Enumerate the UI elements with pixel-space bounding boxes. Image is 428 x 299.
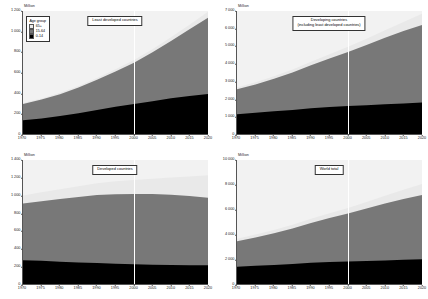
x-axis-tick-mark (115, 285, 116, 286)
x-axis-tick-label: 2005 (148, 287, 156, 291)
y-axis-tick-label: 7 000 (225, 9, 235, 13)
y-axis-tick-mark (21, 114, 22, 115)
chart-panel-developing: Million Developing countries (including … (214, 0, 428, 149)
y-axis-tick-label: 2 000 (225, 258, 235, 262)
x-axis-tick-label: 2000 (343, 287, 351, 291)
legend-label: 0-14 (36, 34, 43, 39)
x-axis-tick-mark (310, 285, 311, 286)
x-axis-tick-label: 2010 (381, 287, 389, 291)
y-axis-tick-mark (21, 249, 22, 250)
x-axis-tick-mark (133, 285, 134, 286)
x-axis-tick-mark (385, 135, 386, 136)
y-axis-tick-mark (235, 64, 236, 65)
y-axis-tick-mark (21, 160, 22, 161)
x-axis-tick-mark (96, 135, 97, 136)
x-axis-tick-label: 1970 (232, 287, 240, 291)
x-axis-tick-mark (171, 285, 172, 286)
x-axis-tick-mark (347, 285, 348, 286)
x-axis-tick-label: 1975 (36, 137, 44, 141)
plot-area (236, 160, 422, 285)
y-axis-tick-mark (21, 231, 22, 232)
x-axis-tick-mark (171, 135, 172, 136)
x-axis-tick-label: 1975 (250, 137, 258, 141)
stacked-area-svg (23, 160, 208, 284)
x-axis-tick-label: 2020 (204, 137, 212, 141)
y-axis-tick-label: 4 000 (225, 62, 235, 66)
legend: Age group 65+ 15-64 0-14 (26, 16, 50, 42)
x-axis-tick-mark (115, 135, 116, 136)
x-axis-tick-label: 1980 (269, 137, 277, 141)
x-axis-tick-mark (292, 285, 293, 286)
y-axis-tick-mark (21, 267, 22, 268)
x-axis-tick-label: 2010 (167, 137, 175, 141)
y-axis-tick-label: 800 (14, 50, 20, 54)
x-axis-tick-mark (189, 285, 190, 286)
y-axis-tick-mark (235, 260, 236, 261)
y-axis-tick-label: 400 (14, 92, 20, 96)
panel-title-line1: Least developed countries (92, 17, 137, 22)
x-axis-tick-mark (40, 285, 41, 286)
y-axis-tick-mark (235, 82, 236, 83)
x-axis-tick-mark (236, 285, 237, 286)
x-axis-tick-mark (273, 285, 274, 286)
x-axis-tick-mark (347, 135, 348, 136)
x-axis-tick-label: 1970 (18, 137, 26, 141)
y-axis-tick-mark (21, 11, 22, 12)
y-axis-tick-mark (235, 28, 236, 29)
x-axis-tick-label: 1995 (325, 287, 333, 291)
chart-panel-developed: Million Developed countries 020040060080… (0, 149, 214, 299)
x-axis-tick-mark (208, 135, 209, 136)
y-axis-tick-mark (235, 11, 236, 12)
x-axis-tick-mark (292, 135, 293, 136)
x-axis-tick-label: 1995 (325, 137, 333, 141)
x-axis-tick-label: 1980 (55, 137, 63, 141)
x-axis-tick-label: 1975 (250, 287, 258, 291)
panel-title: Developing countries (including least de… (292, 16, 365, 31)
y-axis-tick-label: 800 (14, 212, 20, 216)
x-axis-tick-mark (254, 285, 255, 286)
x-axis-tick-label: 2020 (418, 287, 426, 291)
y-axis-tick-label: 1 400 (11, 158, 21, 162)
x-axis-tick-mark (22, 285, 23, 286)
y-axis-tick-mark (21, 73, 22, 74)
x-axis-tick-label: 2020 (418, 137, 426, 141)
y-axis-unit-label: Million (238, 154, 249, 158)
panel-title: Developed countries (92, 165, 137, 175)
y-axis-unit-label: Million (24, 5, 35, 9)
y-axis-tick-label: 1 000 (225, 115, 235, 119)
y-axis-tick-label: 200 (14, 265, 20, 269)
x-axis-tick-mark (133, 135, 134, 136)
x-axis-tick-label: 1990 (92, 287, 100, 291)
y-axis-tick-label: 10 000 (223, 158, 235, 162)
legend-item: 0-14 (29, 34, 46, 39)
y-axis-tick-label: 4 000 (225, 233, 235, 237)
y-axis-tick-mark (21, 52, 22, 53)
y-axis-tick-mark (235, 185, 236, 186)
chart-panel-least-developed: Million Least developed countries Age gr… (0, 0, 214, 149)
x-axis-tick-mark (236, 135, 237, 136)
chart-panel-world-total: Million World total 02 0004 0006 0008 00… (214, 149, 428, 299)
y-axis-tick-label: 1 000 (11, 30, 21, 34)
y-axis-tick-label: 5 000 (225, 45, 235, 49)
x-axis-tick-mark (329, 135, 330, 136)
y-axis-unit-label: Million (238, 5, 249, 9)
x-axis-tick-mark (366, 135, 367, 136)
x-axis-tick-label: 1990 (306, 137, 314, 141)
legend-title: Age group (29, 19, 46, 23)
x-axis-tick-mark (403, 285, 404, 286)
x-axis-tick-label: 1970 (232, 137, 240, 141)
x-axis-tick-label: 1995 (111, 287, 119, 291)
y-axis-tick-label: 3 000 (225, 80, 235, 84)
x-axis-tick-mark (152, 285, 153, 286)
x-axis-tick-mark (329, 285, 330, 286)
x-axis-tick-label: 1975 (36, 287, 44, 291)
y-axis-tick-label: 6 000 (225, 208, 235, 212)
y-axis-tick-mark (21, 213, 22, 214)
x-axis-tick-mark (273, 135, 274, 136)
x-axis-tick-label: 1990 (92, 137, 100, 141)
x-axis-tick-label: 2005 (362, 137, 370, 141)
y-axis-tick-mark (21, 93, 22, 94)
reference-year-line (134, 160, 135, 284)
y-axis-tick-mark (235, 117, 236, 118)
x-axis-tick-label: 2015 (185, 287, 193, 291)
